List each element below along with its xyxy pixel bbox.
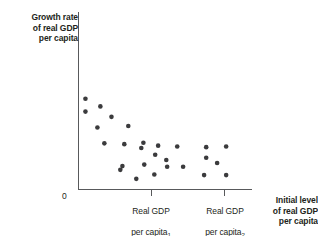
data-point xyxy=(142,162,147,167)
data-point xyxy=(141,140,146,145)
x-tick-label-2: Real GDP per capita2 xyxy=(187,195,263,236)
data-point xyxy=(224,173,229,178)
data-point xyxy=(156,143,161,148)
data-point xyxy=(202,173,207,178)
data-point xyxy=(224,144,229,149)
data-point xyxy=(109,115,114,120)
data-point xyxy=(134,177,139,182)
data-point xyxy=(122,142,127,147)
data-point xyxy=(204,155,209,160)
data-point xyxy=(164,158,169,163)
data-point xyxy=(83,96,88,101)
data-point xyxy=(98,104,103,109)
data-point xyxy=(181,164,186,169)
data-point xyxy=(204,145,209,150)
data-point xyxy=(83,109,88,114)
data-point xyxy=(152,172,157,177)
data-point xyxy=(215,161,220,166)
data-point xyxy=(118,168,123,173)
data-point xyxy=(139,146,144,151)
x-tick-label-1-line2: per capita xyxy=(131,227,167,236)
chart-figure: Growth rate of real GDP per capita 0 Rea… xyxy=(0,0,318,236)
x-tick-label-2-line2: per capita xyxy=(205,227,241,236)
x-tick-label-2-line1: Real GDP xyxy=(206,206,243,216)
x-tick-label-1-line1: Real GDP xyxy=(132,206,169,216)
x-axis-title: Initial level of real GDP per capita xyxy=(256,195,318,227)
y-axis-title: Growth rate of real GDP per capita xyxy=(4,12,78,44)
x-tick-label-2-subscript: 2 xyxy=(242,231,245,236)
data-points-group xyxy=(83,96,228,181)
data-point xyxy=(102,141,107,146)
data-point xyxy=(126,124,131,129)
data-point xyxy=(153,153,158,158)
data-point xyxy=(95,125,100,130)
data-point xyxy=(165,164,170,169)
origin-label: 0 xyxy=(62,191,67,202)
data-point xyxy=(175,144,180,149)
x-tick-label-1: Real GDP per capita1 xyxy=(113,195,189,236)
x-tick-label-1-subscript: 1 xyxy=(168,231,171,236)
